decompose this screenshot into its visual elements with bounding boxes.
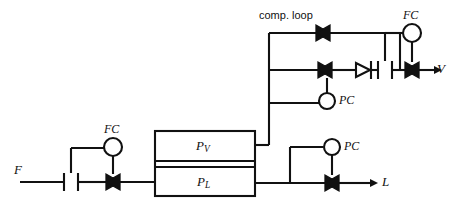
fc-feed-bubble[interactable] (104, 138, 122, 156)
fc-vapor-tag-label: FC (403, 9, 418, 21)
vessel-liquid-symbol: P (197, 174, 205, 189)
process-lines (20, 24, 442, 196)
vapor-stream-label: V (437, 62, 445, 75)
pid-diagram-canvas: comp. loop F V L PV PL FC FC PC PC (0, 0, 456, 209)
pc-liquid-bubble[interactable] (324, 139, 340, 155)
pc-liquid-tag-label: PC (344, 140, 359, 152)
vessel-liquid-label: PL (197, 175, 210, 190)
vessel-vapor-subscript: V (204, 144, 210, 154)
pc-comp-bubble[interactable] (319, 93, 335, 109)
liquid-discharge-arrowhead (370, 179, 378, 187)
fc-vapor-bubble[interactable] (403, 24, 421, 42)
liquid-stream-label: L (382, 175, 389, 188)
fc-feed-tag-label: FC (104, 123, 119, 135)
vessel-vapor-label: PV (196, 139, 210, 154)
vessel-vapor-symbol: P (196, 138, 204, 153)
pc-comp-tag-label: PC (339, 94, 354, 106)
vessel-liquid-subscript: L (205, 180, 210, 190)
comp-loop-label: comp. loop (259, 10, 313, 21)
feed-stream-label: F (14, 163, 22, 176)
vapor-check-valve-body (356, 63, 370, 77)
